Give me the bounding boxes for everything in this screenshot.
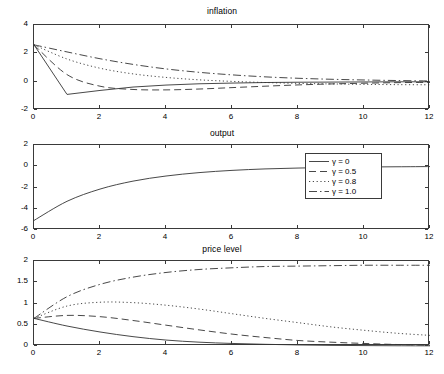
y-tick-mark [425, 144, 428, 145]
x-tick-mark [363, 25, 364, 28]
x-tick-mark [99, 145, 100, 148]
y-tick-label: 0 [0, 77, 28, 85]
x-tick-mark [165, 25, 166, 28]
x-tick-label: 4 [153, 349, 177, 357]
y-tick-label: 0 [0, 161, 28, 169]
y-tick-label: -2 [0, 183, 28, 191]
legend-line-sample [309, 177, 329, 186]
y-tick-label: 0 [0, 341, 28, 349]
y-tick-mark [425, 281, 428, 282]
y-tick-mark [425, 208, 428, 209]
x-tick-mark [33, 261, 34, 264]
x-tick-mark [99, 105, 100, 108]
x-tick-mark [33, 225, 34, 228]
x-tick-mark [297, 225, 298, 228]
y-tick-mark [34, 187, 37, 188]
y-tick-mark [425, 187, 428, 188]
x-tick-label: 2 [87, 349, 111, 357]
y-tick-label: -6 [0, 225, 28, 233]
x-tick-label: 0 [21, 349, 45, 357]
x-tick-mark [297, 341, 298, 344]
y-tick-label: -4 [0, 204, 28, 212]
series-dotted [34, 45, 430, 85]
x-tick-mark [165, 145, 166, 148]
x-tick-mark [297, 145, 298, 148]
x-tick-mark [429, 25, 430, 28]
panel-title-inflation: inflation [0, 6, 444, 16]
x-tick-mark [165, 261, 166, 264]
legend-label: γ = 1.0 [329, 187, 356, 196]
legend-line-sample [309, 157, 329, 166]
panel-title-price-level: price level [0, 244, 444, 254]
x-tick-label: 12 [417, 233, 441, 241]
figure-canvas: inflation -2024 024681012 output -6-4-20… [0, 0, 444, 374]
x-tick-mark [99, 261, 100, 264]
panel-title-output: output [0, 128, 444, 138]
panel-inflation: inflation -2024 024681012 [0, 6, 444, 128]
x-tick-mark [363, 225, 364, 228]
x-tick-mark [363, 145, 364, 148]
legend-item: γ = 0.5 [309, 166, 378, 176]
x-tick-mark [231, 261, 232, 264]
x-tick-mark [429, 145, 430, 148]
y-tick-mark [34, 144, 37, 145]
y-tick-mark [34, 324, 37, 325]
y-tick-label: 1.5 [0, 277, 28, 285]
series-dotted [34, 302, 430, 335]
x-tick-mark [165, 341, 166, 344]
series-solid [34, 318, 430, 345]
y-tick-mark [425, 109, 428, 110]
x-tick-mark [297, 25, 298, 28]
y-tick-label: 2 [0, 140, 28, 148]
y-tick-mark [425, 24, 428, 25]
y-tick-mark [425, 165, 428, 166]
x-tick-mark [99, 225, 100, 228]
x-tick-mark [429, 105, 430, 108]
x-tick-label: 10 [351, 233, 375, 241]
legend-label: γ = 0.5 [329, 167, 356, 176]
panel-price-level: price level 00.511.52 024681012 [0, 244, 444, 374]
x-tick-mark [231, 225, 232, 228]
legend-item: γ = 0.8 [309, 176, 378, 186]
y-tick-mark [34, 81, 37, 82]
legend-item: γ = 0 [309, 156, 378, 166]
y-tick-mark [425, 229, 428, 230]
x-tick-mark [231, 25, 232, 28]
x-tick-mark [33, 105, 34, 108]
x-tick-mark [165, 105, 166, 108]
series-dashdot [34, 45, 430, 81]
plot-area-price-level [33, 260, 429, 345]
y-tick-label: -2 [0, 105, 28, 113]
x-tick-mark [231, 145, 232, 148]
x-tick-mark [363, 261, 364, 264]
x-tick-label: 6 [219, 349, 243, 357]
x-tick-label: 8 [285, 113, 309, 121]
x-tick-label: 12 [417, 349, 441, 357]
y-tick-mark [425, 345, 428, 346]
x-tick-mark [99, 25, 100, 28]
x-tick-mark [231, 341, 232, 344]
x-tick-label: 4 [153, 113, 177, 121]
y-tick-mark [34, 303, 37, 304]
x-tick-label: 10 [351, 113, 375, 121]
y-tick-label: 4 [0, 20, 28, 28]
series-dashed [34, 315, 430, 345]
x-tick-label: 12 [417, 113, 441, 121]
y-tick-mark [34, 281, 37, 282]
legend-line-sample [309, 187, 329, 196]
y-tick-label: 1 [0, 299, 28, 307]
y-tick-label: 2 [0, 256, 28, 264]
x-tick-mark [297, 261, 298, 264]
y-tick-mark [425, 81, 428, 82]
y-tick-label: 2 [0, 48, 28, 56]
x-tick-label: 8 [285, 349, 309, 357]
y-tick-mark [34, 165, 37, 166]
legend-label: γ = 0 [329, 157, 350, 166]
x-tick-label: 10 [351, 349, 375, 357]
x-tick-label: 0 [21, 113, 45, 121]
y-tick-mark [34, 24, 37, 25]
y-tick-mark [34, 109, 37, 110]
curves-inflation [34, 25, 430, 110]
x-tick-mark [231, 105, 232, 108]
series-dashdot [34, 265, 430, 318]
